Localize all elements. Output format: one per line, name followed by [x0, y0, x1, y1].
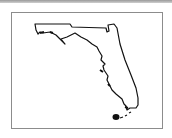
lake-okeechobee-or-everglades-blob [113, 114, 120, 120]
florida-outline [35, 24, 138, 110]
florida-map [0, 0, 172, 138]
florida-keys [120, 112, 131, 118]
gulf-coast-bays [40, 32, 128, 108]
